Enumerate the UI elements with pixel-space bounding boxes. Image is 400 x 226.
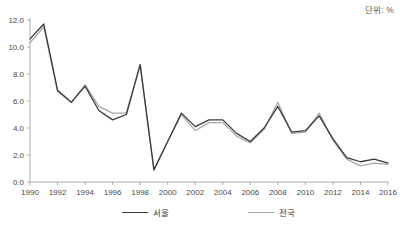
x-tick-label: 1996 bbox=[104, 188, 122, 197]
y-tick-label: 12.0 bbox=[8, 16, 24, 25]
x-tick-label: 2004 bbox=[214, 188, 232, 197]
x-tick-label: 2012 bbox=[324, 188, 342, 197]
legend-label-nationwide: 전국 bbox=[279, 206, 295, 218]
y-tick-label: 8.0 bbox=[13, 70, 25, 79]
x-tick-label: 1990 bbox=[21, 188, 39, 197]
y-tick-label: 6.0 bbox=[13, 97, 25, 106]
x-axis-ticks: 1990199219941996199820002002200420062008… bbox=[21, 182, 397, 197]
y-axis-ticks: 0.02.04.06.08.010.012.0 bbox=[8, 16, 30, 187]
x-tick-label: 1992 bbox=[49, 188, 67, 197]
x-tick-label: 2000 bbox=[159, 188, 177, 197]
x-tick-label: 2008 bbox=[269, 188, 287, 197]
legend-label-seoul: 서울 bbox=[153, 206, 169, 218]
x-tick-label: 2016 bbox=[379, 188, 397, 197]
line-chart: 단위: % 0.02.04.06.08.010.012.0 1990199219… bbox=[0, 0, 400, 226]
y-tick-label: 4.0 bbox=[13, 124, 25, 133]
y-tick-label: 10.0 bbox=[8, 43, 24, 52]
legend-swatch-seoul bbox=[122, 212, 148, 213]
chart-legend: 서울 전국 bbox=[0, 202, 400, 224]
series-line-전국 bbox=[30, 27, 388, 170]
plot-area: 0.02.04.06.08.010.012.0 1990199219941996… bbox=[0, 0, 400, 226]
y-tick-label: 0.0 bbox=[13, 178, 25, 187]
x-tick-label: 1998 bbox=[131, 188, 149, 197]
series-line-서울 bbox=[30, 24, 388, 170]
x-tick-label: 2010 bbox=[296, 188, 314, 197]
y-tick-label: 2.0 bbox=[13, 151, 25, 160]
legend-swatch-nationwide bbox=[248, 212, 274, 213]
legend-item-nationwide[interactable]: 전국 bbox=[248, 206, 295, 218]
x-tick-label: 2006 bbox=[241, 188, 259, 197]
x-tick-label: 1994 bbox=[76, 188, 94, 197]
series-lines bbox=[30, 24, 388, 170]
x-tick-label: 2002 bbox=[186, 188, 204, 197]
legend-item-seoul[interactable]: 서울 bbox=[122, 206, 169, 218]
x-tick-label: 2014 bbox=[352, 188, 370, 197]
